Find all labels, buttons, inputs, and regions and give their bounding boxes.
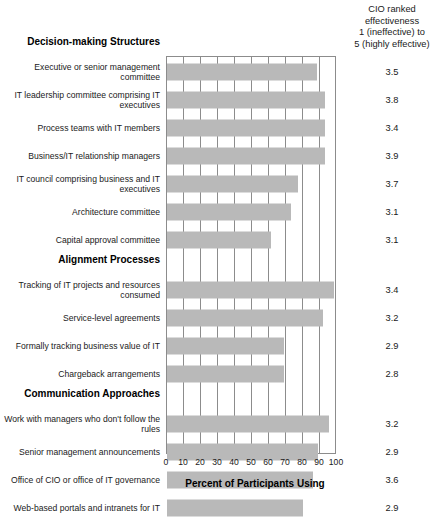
bar xyxy=(167,204,291,221)
chart-row: Tracking of IT projects and resources co… xyxy=(0,276,446,304)
x-tick-40: 40 xyxy=(229,457,239,467)
row-label: IT leadership committee comprising IT ex… xyxy=(0,90,160,111)
rank-value: 3.1 xyxy=(340,235,444,245)
x-tick-0: 0 xyxy=(164,457,169,467)
chart-row: Service-level agreements3.2 xyxy=(0,304,446,332)
chart-row: Capital approval committee3.1 xyxy=(0,226,446,254)
rank-value: 3.8 xyxy=(340,95,444,105)
bar xyxy=(167,64,317,81)
row-label: Architecture committee xyxy=(0,207,160,217)
rank-value: 3.1 xyxy=(340,207,444,217)
x-tick-100: 100 xyxy=(329,457,343,467)
bar xyxy=(167,416,329,433)
x-tick-20: 20 xyxy=(195,457,205,467)
chart-row: Business/IT relationship managers3.9 xyxy=(0,142,446,170)
bar xyxy=(167,232,271,249)
chart-row: Web-based portals and intranets for IT2.… xyxy=(0,494,446,521)
chart-row: IT leadership committee comprising IT ex… xyxy=(0,86,446,114)
row-label: Formally tracking business value of IT xyxy=(0,341,160,351)
chart-row: Executive or senior management committee… xyxy=(0,58,446,86)
rank-value: 2.9 xyxy=(340,503,444,513)
rank-value: 2.9 xyxy=(340,447,444,457)
row-label: Capital approval committee xyxy=(0,235,160,245)
row-label: Web-based portals and intranets for IT xyxy=(0,503,160,513)
row-label: Senior management announcements xyxy=(0,447,160,457)
rank-header-line-0: CIO ranked xyxy=(340,4,444,16)
row-label: Tracking of IT projects and resources co… xyxy=(0,280,160,301)
bar xyxy=(167,282,334,299)
x-axis-title: Percent of Participants Using xyxy=(120,478,390,489)
rank-value: 3.5 xyxy=(340,67,444,77)
row-label: Chargeback arrangements xyxy=(0,369,160,379)
x-tick-80: 80 xyxy=(297,457,307,467)
row-label: Service-level agreements xyxy=(0,313,160,323)
bar xyxy=(167,176,298,193)
x-tick-90: 90 xyxy=(314,457,324,467)
x-tick-70: 70 xyxy=(280,457,290,467)
x-tick-10: 10 xyxy=(178,457,188,467)
chart-row: Chargeback arrangements2.8 xyxy=(0,360,446,388)
x-axis-ticks: 0102030405060708090100 xyxy=(0,457,446,469)
row-label: Process teams with IT members xyxy=(0,123,160,133)
rank-value: 2.8 xyxy=(340,369,444,379)
section-heading-2: Communication Approaches xyxy=(0,388,160,399)
chart-row: Architecture committee3.1 xyxy=(0,198,446,226)
rank-value: 3.4 xyxy=(340,285,444,295)
rank-header-line-1: effectiveness xyxy=(340,16,444,28)
row-label: Executive or senior management committee xyxy=(0,62,160,83)
chart-row: IT council comprising business and IT ex… xyxy=(0,170,446,198)
row-label: IT council comprising business and IT ex… xyxy=(0,174,160,195)
bar xyxy=(167,148,325,165)
x-tick-60: 60 xyxy=(263,457,273,467)
rank-header-line-3: 5 (highly effective) xyxy=(340,39,444,51)
section-heading-0: Decision-making Structures xyxy=(0,36,160,47)
bar xyxy=(167,92,325,109)
rank-value: 3.9 xyxy=(340,151,444,161)
bar xyxy=(167,120,325,137)
rank-header-line-2: 1 (ineffective) to xyxy=(340,27,444,39)
chart-row: Work with managers who don't follow the … xyxy=(0,410,446,438)
rank-value: 2.9 xyxy=(340,341,444,351)
rank-value: 3.2 xyxy=(340,419,444,429)
x-tick-50: 50 xyxy=(246,457,256,467)
rank-value: 3.4 xyxy=(340,123,444,133)
x-tick-30: 30 xyxy=(212,457,222,467)
section-heading-1: Alignment Processes xyxy=(0,254,160,265)
bar xyxy=(167,366,284,383)
row-label: Business/IT relationship managers xyxy=(0,151,160,161)
rank-value: 3.7 xyxy=(340,179,444,189)
chart-row: Process teams with IT members3.4 xyxy=(0,114,446,142)
bar xyxy=(167,310,323,327)
rank-column-header: CIO rankedeffectiveness1 (ineffective) t… xyxy=(340,4,444,50)
bar xyxy=(167,500,303,517)
row-label: Work with managers who don't follow the … xyxy=(0,414,160,435)
rank-value: 3.2 xyxy=(340,313,444,323)
chart-row: Formally tracking business value of IT2.… xyxy=(0,332,446,360)
bar xyxy=(167,338,284,355)
